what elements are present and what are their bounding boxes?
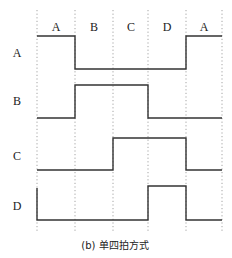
signal-label-c: C: [13, 149, 21, 163]
phase-label: A: [52, 20, 61, 34]
waveform-d: [37, 186, 222, 220]
grid-lines: [37, 10, 222, 232]
waveform-c: [37, 138, 222, 170]
phase-label: B: [90, 20, 98, 34]
phase-label: D: [163, 20, 172, 34]
signal-label-d: D: [13, 199, 22, 213]
signal-labels: A B C D: [13, 46, 22, 213]
signal-label-a: A: [13, 46, 22, 60]
waveform-a: [37, 36, 222, 69]
waveforms: [37, 36, 222, 220]
phase-label: C: [127, 20, 135, 34]
figure-caption: (b) 单四拍方式: [81, 239, 148, 251]
signal-label-b: B: [13, 94, 21, 108]
waveform-b: [37, 85, 222, 118]
timing-diagram: A B C D A A B C D (b) 单四拍方式: [0, 0, 232, 258]
phase-label: A: [200, 20, 209, 34]
